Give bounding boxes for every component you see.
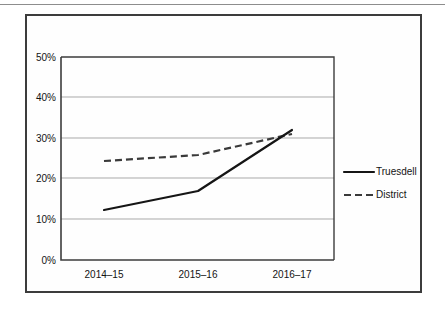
plot-axes <box>61 57 334 260</box>
y-tick-label-20: 20% <box>36 173 56 184</box>
y-tick-label-0: 0% <box>42 255 57 266</box>
x-tick-label-2014-15: 2014–15 <box>85 269 124 280</box>
y-tick-label-30: 30% <box>36 133 56 144</box>
chart-figure-frame: 50% 40% 30% 20% 10% 0% 2014–15 2015–16 2… <box>25 14 422 293</box>
plot-area-border <box>61 57 334 260</box>
chart-svg: 50% 40% 30% 20% 10% 0% 2014–15 2015–16 2… <box>27 16 424 295</box>
x-tick-label-2015-16: 2015–16 <box>179 269 218 280</box>
legend-label-district: District <box>376 189 407 200</box>
y-tick-label-50: 50% <box>36 52 56 63</box>
x-axis-ticks: 2014–15 2015–16 2016–17 <box>85 269 312 280</box>
y-tick-label-40: 40% <box>36 92 56 103</box>
chart-legend: Truesdell District <box>344 166 417 200</box>
x-tick-label-2016-17: 2016–17 <box>273 269 312 280</box>
line-chart: 50% 40% 30% 20% 10% 0% 2014–15 2015–16 2… <box>27 16 420 291</box>
gridlines <box>61 97 334 219</box>
plot-top-right-border <box>61 57 334 260</box>
legend-label-truesdell: Truesdell <box>376 166 417 177</box>
page-top-rule <box>0 4 445 5</box>
y-tick-label-10: 10% <box>36 214 56 225</box>
series-line-truesdell <box>104 130 292 210</box>
y-axis-ticks: 50% 40% 30% 20% 10% 0% <box>36 52 56 266</box>
